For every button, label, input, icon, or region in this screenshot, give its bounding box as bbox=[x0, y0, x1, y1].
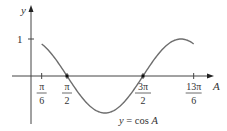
cosine-chart: y A 1 π6π23π213π6 y = cos A bbox=[0, 0, 227, 131]
x-tick-numerator: 13π bbox=[186, 81, 201, 92]
y-axis-arrow-icon bbox=[29, 5, 34, 12]
x-tick-numerator: π bbox=[39, 81, 44, 92]
function-annotation: y = cos A bbox=[118, 115, 158, 126]
zero-point-pi-over-2 bbox=[66, 75, 69, 78]
x-axis-arrow-icon bbox=[207, 74, 214, 79]
x-tick-denominator: 2 bbox=[65, 95, 70, 106]
x-tick-numerator: 3π bbox=[138, 81, 148, 92]
x-tick-denominator: 6 bbox=[39, 95, 44, 106]
x-tick-denominator: 2 bbox=[141, 95, 146, 106]
zero-point-3pi-over-2 bbox=[142, 75, 145, 78]
x-axis-label: A bbox=[212, 80, 220, 92]
x-tick-numerator: π bbox=[64, 81, 69, 92]
x-tick-denominator: 6 bbox=[191, 95, 196, 106]
y-axis-label: y bbox=[20, 4, 26, 16]
y-tick-label-1: 1 bbox=[17, 33, 23, 45]
